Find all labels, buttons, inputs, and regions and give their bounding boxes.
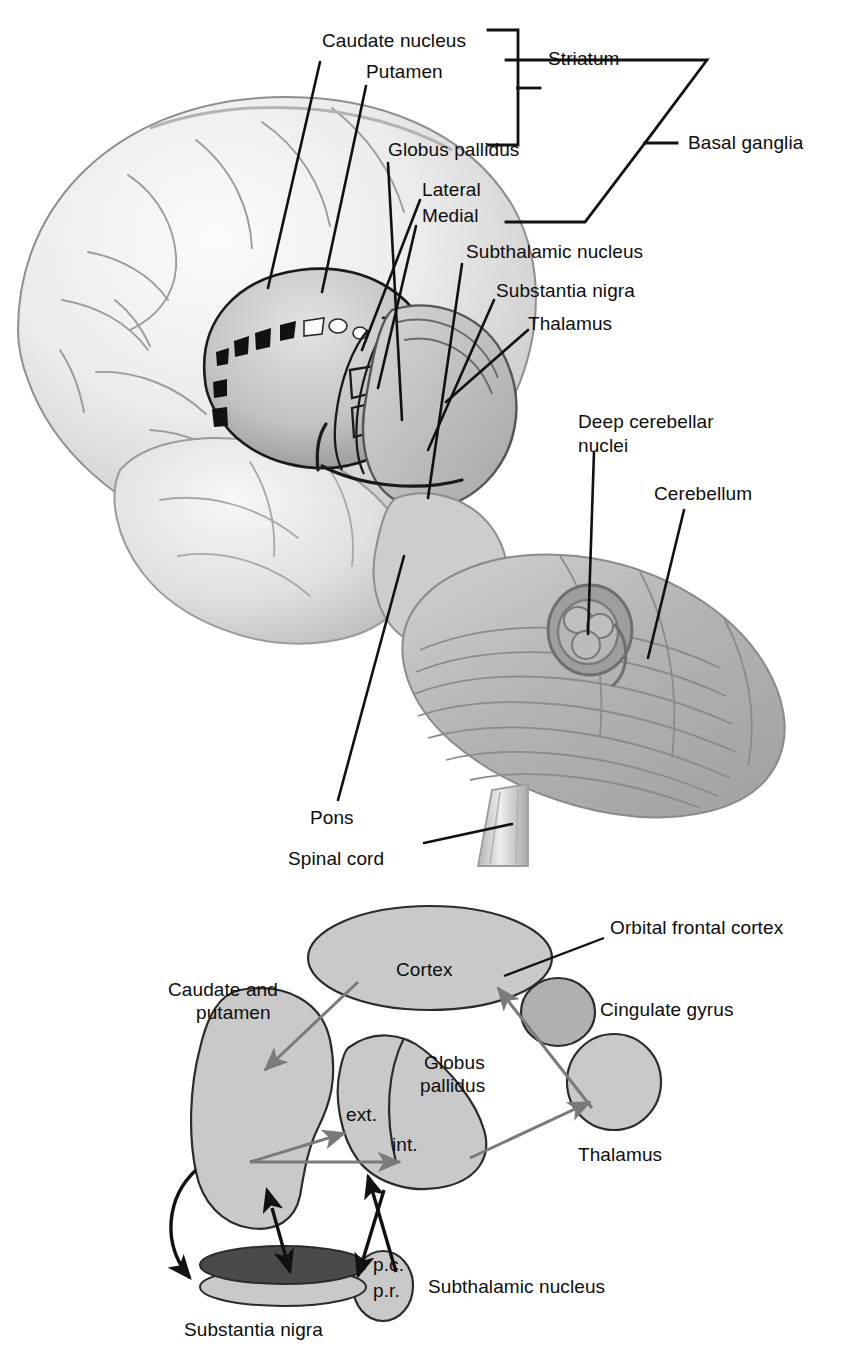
basal-ganglia-circuit-panel: Orbital frontal cortex Cortex Caudate an… (0, 890, 841, 1372)
label-pons: Pons (310, 806, 354, 829)
label-subthalamic-nucleus-schematic: Subthalamic nucleus (428, 1275, 605, 1298)
figure-page: Caudate nucleus Putamen Striatum Basal g… (0, 0, 841, 1372)
basal-ganglia-bracket (506, 60, 707, 222)
label-orbital-frontal-cortex: Orbital frontal cortex (610, 916, 783, 939)
label-sn-pars-reticulata: p.r. (373, 1279, 400, 1302)
label-cerebellum: Cerebellum (654, 482, 752, 505)
leader-orbital-frontal-cortex (504, 938, 604, 976)
label-gp-int: int. (392, 1133, 418, 1156)
label-caudate-and-putamen-line1: Caudate and (168, 978, 278, 1001)
label-substantia-nigra: Substantia nigra (496, 279, 635, 302)
striatum-bracket (488, 30, 540, 145)
label-subthalamic-nucleus: Subthalamic nucleus (466, 240, 643, 263)
label-cingulate-gyrus: Cingulate gyrus (600, 998, 734, 1021)
label-substantia-nigra-schematic: Substantia nigra (184, 1318, 323, 1341)
label-striatum: Striatum (548, 47, 620, 70)
label-spinal-cord: Spinal cord (288, 847, 384, 870)
label-deep-cerebellar-nuclei-line1: Deep cerebellar (578, 410, 714, 433)
label-gp-ext: ext. (346, 1103, 377, 1126)
label-globus-pallidus-line2: pallidus (420, 1074, 485, 1097)
cerebellum-shape (402, 554, 784, 817)
label-sn-pars-compacta: p.c. (373, 1253, 404, 1276)
label-globus-pallidus: Globus pallidus (388, 138, 519, 161)
label-lateral: Lateral (422, 178, 481, 201)
label-cortex: Cortex (396, 958, 453, 981)
brain-anatomy-panel: Caudate nucleus Putamen Striatum Basal g… (0, 0, 841, 890)
label-basal-ganglia: Basal ganglia (688, 131, 803, 154)
label-globus-pallidus-line1: Globus (424, 1051, 485, 1074)
label-thalamus-schematic: Thalamus (578, 1143, 662, 1166)
label-caudate-nucleus: Caudate nucleus (322, 29, 466, 52)
label-deep-cerebellar-nuclei-line2: nuclei (578, 434, 628, 457)
label-medial: Medial (422, 204, 479, 227)
label-thalamus: Thalamus (528, 312, 612, 335)
label-putamen: Putamen (366, 60, 443, 83)
label-caudate-and-putamen-line2: putamen (196, 1001, 271, 1024)
